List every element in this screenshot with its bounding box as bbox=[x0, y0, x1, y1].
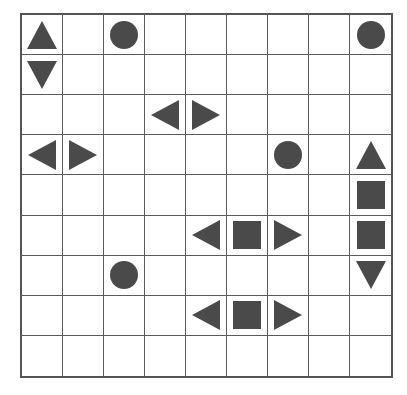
grid-cell-r5-c8[interactable] bbox=[309, 175, 350, 215]
triangle-down-icon bbox=[354, 258, 388, 292]
triangle-up-icon bbox=[25, 18, 59, 52]
grid-cell-r5-c7[interactable] bbox=[268, 175, 309, 215]
triangle-right-icon bbox=[66, 138, 100, 172]
grid-cell-r2-c9[interactable] bbox=[350, 55, 391, 95]
grid-cell-r7-c2[interactable] bbox=[63, 256, 104, 296]
grid-cell-r7-c8[interactable] bbox=[309, 256, 350, 296]
grid-cell-r2-c8[interactable] bbox=[309, 55, 350, 95]
grid-cell-r2-c7[interactable] bbox=[268, 55, 309, 95]
circle-icon bbox=[107, 18, 141, 52]
grid-cell-r4-c3[interactable] bbox=[104, 135, 145, 175]
grid-cell-r3-c2[interactable] bbox=[63, 95, 104, 135]
grid-cell-r9-c9[interactable] bbox=[350, 336, 391, 376]
grid-cell-r7-c5[interactable] bbox=[186, 256, 227, 296]
grid-cell-r2-c1[interactable] bbox=[22, 55, 63, 95]
grid-cell-r5-c3[interactable] bbox=[104, 175, 145, 215]
grid-cell-r5-c5[interactable] bbox=[186, 175, 227, 215]
grid-cell-r9-c8[interactable] bbox=[309, 336, 350, 376]
grid-cell-r6-c2[interactable] bbox=[63, 216, 104, 256]
grid-cell-r3-c3[interactable] bbox=[104, 95, 145, 135]
grid-cell-r6-c5[interactable] bbox=[186, 216, 227, 256]
grid-cell-r4-c8[interactable] bbox=[309, 135, 350, 175]
grid-cell-r8-c4[interactable] bbox=[145, 296, 186, 336]
grid-cell-r3-c9[interactable] bbox=[350, 95, 391, 135]
shape-grid bbox=[20, 13, 393, 378]
grid-cell-r4-c6[interactable] bbox=[227, 135, 268, 175]
grid-cell-r9-c3[interactable] bbox=[104, 336, 145, 376]
grid-cell-r7-c4[interactable] bbox=[145, 256, 186, 296]
grid-cell-r1-c3[interactable] bbox=[104, 15, 145, 55]
grid-cell-r8-c8[interactable] bbox=[309, 296, 350, 336]
grid-cell-r6-c3[interactable] bbox=[104, 216, 145, 256]
circle-icon bbox=[271, 138, 305, 172]
grid-cell-r9-c6[interactable] bbox=[227, 336, 268, 376]
grid-cell-r1-c6[interactable] bbox=[227, 15, 268, 55]
grid-cell-r7-c3[interactable] bbox=[104, 256, 145, 296]
grid-cell-r7-c1[interactable] bbox=[22, 256, 63, 296]
grid-cell-r9-c2[interactable] bbox=[63, 336, 104, 376]
grid-cell-r8-c7[interactable] bbox=[268, 296, 309, 336]
grid-cell-r5-c9[interactable] bbox=[350, 175, 391, 215]
grid-cell-r7-c9[interactable] bbox=[350, 256, 391, 296]
grid-cell-r2-c3[interactable] bbox=[104, 55, 145, 95]
grid-cell-r2-c2[interactable] bbox=[63, 55, 104, 95]
grid-cell-r9-c5[interactable] bbox=[186, 336, 227, 376]
grid-cell-r1-c7[interactable] bbox=[268, 15, 309, 55]
square-icon bbox=[354, 178, 388, 212]
triangle-right-icon bbox=[271, 218, 305, 252]
circle-icon bbox=[107, 258, 141, 292]
grid-cell-r3-c5[interactable] bbox=[186, 95, 227, 135]
grid-cell-r4-c1[interactable] bbox=[22, 135, 63, 175]
grid-cell-r5-c1[interactable] bbox=[22, 175, 63, 215]
grid-cell-r5-c6[interactable] bbox=[227, 175, 268, 215]
grid-cell-r8-c2[interactable] bbox=[63, 296, 104, 336]
grid-cell-r6-c9[interactable] bbox=[350, 216, 391, 256]
triangle-down-icon bbox=[25, 58, 59, 92]
grid-cell-r4-c9[interactable] bbox=[350, 135, 391, 175]
grid-cell-r1-c4[interactable] bbox=[145, 15, 186, 55]
grid-cell-r7-c7[interactable] bbox=[268, 256, 309, 296]
triangle-left-icon bbox=[189, 298, 223, 332]
grid-cell-r9-c1[interactable] bbox=[22, 336, 63, 376]
grid-cell-r1-c5[interactable] bbox=[186, 15, 227, 55]
grid-cell-r1-c9[interactable] bbox=[350, 15, 391, 55]
grid-cell-r6-c1[interactable] bbox=[22, 216, 63, 256]
grid-cell-r8-c1[interactable] bbox=[22, 296, 63, 336]
grid-cell-r6-c7[interactable] bbox=[268, 216, 309, 256]
grid-cell-r6-c6[interactable] bbox=[227, 216, 268, 256]
grid-cell-r3-c6[interactable] bbox=[227, 95, 268, 135]
triangle-right-icon bbox=[189, 98, 223, 132]
grid-cell-r8-c9[interactable] bbox=[350, 296, 391, 336]
triangle-left-icon bbox=[189, 218, 223, 252]
grid-cell-r4-c7[interactable] bbox=[268, 135, 309, 175]
grid-cell-r5-c4[interactable] bbox=[145, 175, 186, 215]
triangle-left-icon bbox=[25, 138, 59, 172]
grid-cell-r7-c6[interactable] bbox=[227, 256, 268, 296]
grid-cell-r9-c7[interactable] bbox=[268, 336, 309, 376]
grid-cell-r3-c7[interactable] bbox=[268, 95, 309, 135]
triangle-left-icon bbox=[148, 98, 182, 132]
grid-cell-r3-c1[interactable] bbox=[22, 95, 63, 135]
square-icon bbox=[230, 218, 264, 252]
grid-cell-r3-c8[interactable] bbox=[309, 95, 350, 135]
grid-cell-r3-c4[interactable] bbox=[145, 95, 186, 135]
grid-cell-r6-c4[interactable] bbox=[145, 216, 186, 256]
square-icon bbox=[354, 218, 388, 252]
grid-cell-r8-c5[interactable] bbox=[186, 296, 227, 336]
grid-cell-r2-c6[interactable] bbox=[227, 55, 268, 95]
grid-cell-r4-c5[interactable] bbox=[186, 135, 227, 175]
grid-cell-r9-c4[interactable] bbox=[145, 336, 186, 376]
grid-cell-r5-c2[interactable] bbox=[63, 175, 104, 215]
grid-cell-r8-c6[interactable] bbox=[227, 296, 268, 336]
grid-cell-r2-c4[interactable] bbox=[145, 55, 186, 95]
square-icon bbox=[230, 298, 264, 332]
grid-cell-r1-c1[interactable] bbox=[22, 15, 63, 55]
grid-cell-r2-c5[interactable] bbox=[186, 55, 227, 95]
grid-cell-r4-c4[interactable] bbox=[145, 135, 186, 175]
grid-cell-r8-c3[interactable] bbox=[104, 296, 145, 336]
grid-cell-r6-c8[interactable] bbox=[309, 216, 350, 256]
grid-cell-r1-c2[interactable] bbox=[63, 15, 104, 55]
grid-cell-r4-c2[interactable] bbox=[63, 135, 104, 175]
circle-icon bbox=[354, 18, 388, 52]
grid-cell-r1-c8[interactable] bbox=[309, 15, 350, 55]
